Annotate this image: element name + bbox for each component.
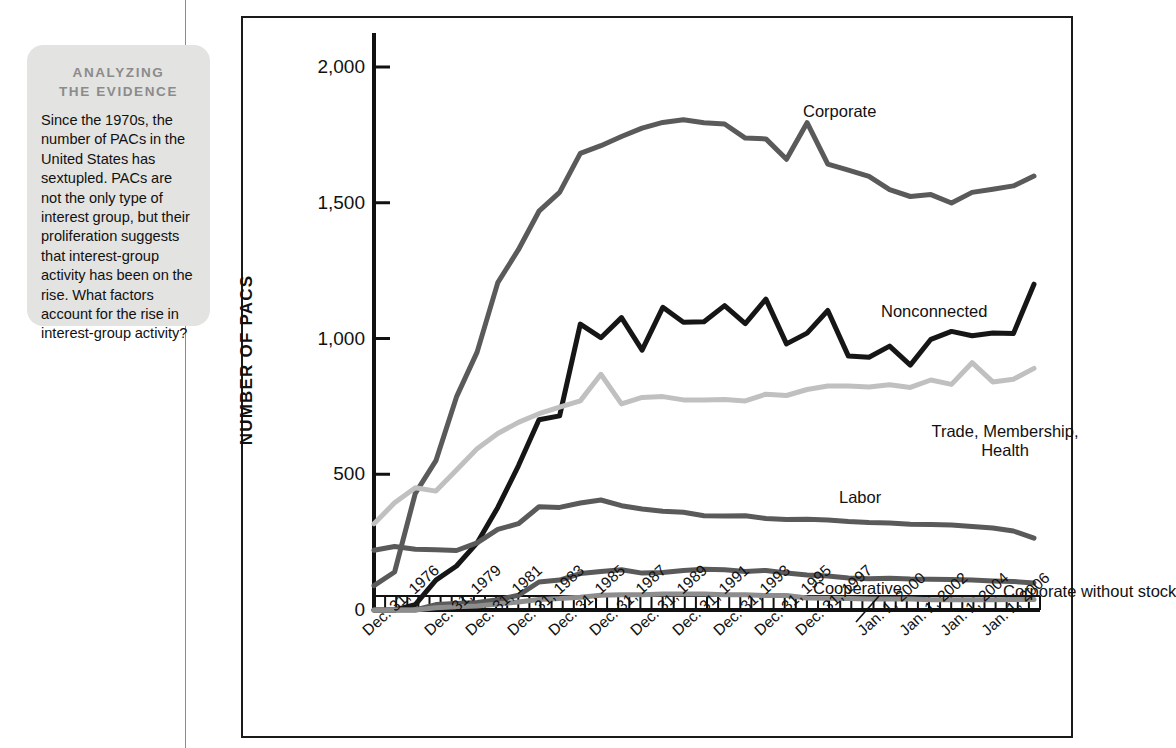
- callout-title: ANALYZING THE EVIDENCE: [41, 63, 196, 101]
- series-line-labor: [374, 500, 1034, 551]
- chart-frame: NUMBER OF PACS 05001,0001,5002,000 Corpo…: [241, 16, 1073, 738]
- analyzing-the-evidence-callout: ANALYZING THE EVIDENCE Since the 1970s, …: [27, 45, 210, 326]
- series-label-line: Health: [931, 441, 1078, 460]
- series-label-nonconnected: Nonconnected: [881, 302, 987, 321]
- series-label-trade-membership-health: Trade, Membership,Health: [931, 422, 1078, 460]
- series-label-labor: Labor: [839, 488, 881, 507]
- callout-title-line-2: THE EVIDENCE: [41, 82, 196, 101]
- series-label-line: Trade, Membership,: [931, 422, 1078, 441]
- chart-area: NUMBER OF PACS 05001,0001,5002,000 Corpo…: [243, 18, 1071, 736]
- series-label-corporate: Corporate: [803, 102, 876, 121]
- callout-title-line-1: ANALYZING: [41, 63, 196, 82]
- callout-body-text: Since the 1970s, the number of PACs in t…: [41, 111, 196, 344]
